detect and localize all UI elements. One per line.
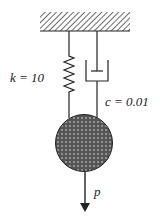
damper-label: c = 0.01 [105, 94, 149, 109]
spring [64, 31, 74, 118]
spring-mass-damper-diagram: k = 10 c = 0.01 p [0, 0, 160, 224]
fixed-support [40, 12, 130, 31]
mass [56, 115, 113, 172]
force-label: p [93, 184, 101, 199]
spring-label: k = 10 [10, 70, 45, 85]
force-arrow-icon [80, 172, 90, 212]
